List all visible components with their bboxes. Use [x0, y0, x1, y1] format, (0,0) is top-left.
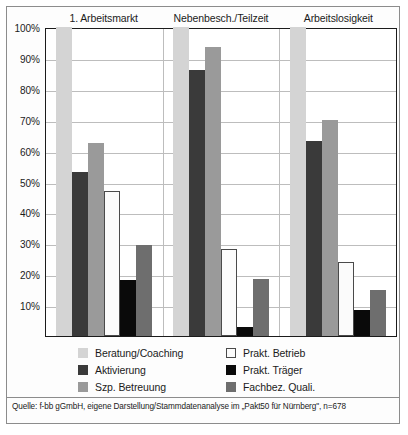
y-tick-label: 100%: [14, 23, 40, 34]
bar: [120, 280, 136, 336]
bar: [136, 245, 152, 336]
legend-label: Prakt. Betrieb: [243, 347, 305, 359]
legend-label: Beratung/Coaching: [95, 347, 183, 359]
legend-item: Aktivierung: [78, 364, 226, 376]
legend-item: Fachbez. Quali.: [226, 381, 374, 393]
bar: [221, 249, 237, 336]
bar: [354, 310, 370, 336]
legend-swatch-icon: [78, 348, 88, 358]
chart-figure: 1. ArbeitsmarktNebenbesch./TeilzeitArbei…: [0, 0, 408, 435]
bar-group-2: [279, 29, 396, 336]
legend-swatch-icon: [78, 365, 88, 375]
legend-label: Aktivierung: [95, 364, 146, 376]
bar: [189, 70, 205, 336]
y-tick-label: 40%: [20, 208, 40, 219]
bar: [88, 143, 104, 336]
bar: [205, 47, 221, 336]
legend-swatch-icon: [226, 365, 236, 375]
bar: [322, 120, 338, 336]
group-title-row: 1. ArbeitsmarktNebenbesch./TeilzeitArbei…: [45, 8, 397, 28]
legend-item: Beratung/Coaching: [78, 347, 226, 359]
y-tick-label: 10%: [20, 301, 40, 312]
chart-legend: Beratung/CoachingPrakt. BetriebAktivieru…: [78, 344, 378, 394]
legend-label: Fachbez. Quali.: [243, 381, 315, 393]
legend-label: Prakt. Träger: [243, 364, 302, 376]
group-title-0: 1. Arbeitsmarkt: [45, 8, 162, 28]
bar: [56, 27, 72, 336]
legend-swatch-icon: [78, 382, 88, 392]
y-tick-label: 20%: [20, 270, 40, 281]
y-tick-label: 60%: [20, 146, 40, 157]
y-tick-label: 70%: [20, 115, 40, 126]
bar: [338, 262, 354, 336]
y-tick-label: 30%: [20, 239, 40, 250]
bar: [173, 27, 189, 336]
bar-group-1: [163, 29, 280, 336]
source-divider: [7, 397, 399, 398]
group-title-1: Nebenbesch./Teilzeit: [162, 8, 279, 28]
legend-item: Szp. Betreuung: [78, 381, 226, 393]
y-tick-label: 80%: [20, 84, 40, 95]
legend-item: Prakt. Träger: [226, 364, 374, 376]
bar: [370, 290, 386, 336]
bar: [104, 191, 120, 336]
bar: [290, 27, 306, 336]
group-title-2: Arbeitslosigkeit: [280, 8, 397, 28]
bar: [306, 141, 322, 336]
legend-swatch-icon: [226, 382, 236, 392]
bar-groups: [46, 29, 396, 336]
bar: [72, 172, 88, 336]
legend-swatch-icon: [226, 348, 236, 358]
y-tick-label: 50%: [20, 177, 40, 188]
bar: [253, 279, 269, 336]
legend-item: Prakt. Betrieb: [226, 347, 374, 359]
legend-label: Szp. Betreuung: [95, 381, 166, 393]
y-tick-label: 90%: [20, 53, 40, 64]
y-axis-labels: 100%90%80%70%60%50%40%30%20%10%: [6, 28, 43, 337]
source-note: Quelle: f-bb gGmbH, eigene Darstellung/S…: [12, 402, 346, 411]
bar: [237, 327, 253, 336]
plot-area: [45, 28, 397, 337]
bar-group-0: [46, 29, 163, 336]
